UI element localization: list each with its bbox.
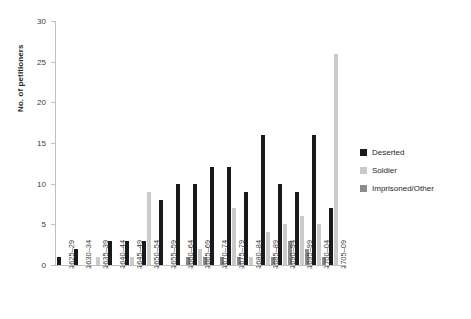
- x-tick-label: 1650–54: [152, 240, 161, 269]
- x-axis-line: [55, 265, 345, 266]
- bar-group: [174, 21, 191, 265]
- bar-group: [106, 21, 123, 265]
- legend-item[interactable]: Imprisoned/Other: [360, 184, 434, 193]
- x-tick-label: 1685–89: [271, 240, 280, 269]
- x-tick-label: 1655–59: [169, 240, 178, 269]
- bar-group: [293, 21, 310, 265]
- x-tick-label: 1635–39: [101, 240, 110, 269]
- bar-soldier: [283, 224, 287, 265]
- x-tick-label: 1625–29: [67, 240, 76, 269]
- bar-group: [276, 21, 293, 265]
- legend-swatch-icon: [360, 149, 367, 156]
- x-tick-label: 1660–64: [186, 240, 195, 269]
- bar-group: [225, 21, 242, 265]
- bar-soldier: [317, 224, 321, 265]
- x-tick-label: 1695–99: [305, 240, 314, 269]
- legend-swatch-icon: [360, 167, 367, 174]
- bar-group: [72, 21, 89, 265]
- bar-soldier: [147, 192, 151, 265]
- bar-group: [208, 21, 225, 265]
- x-tick-label: 1665–69: [203, 240, 212, 269]
- bar-soldier: [130, 257, 134, 265]
- bar-soldier: [334, 54, 338, 265]
- y-tick-label: 15: [0, 139, 46, 148]
- legend-swatch-icon: [360, 185, 367, 192]
- x-tick-label: 1670–74: [220, 240, 229, 269]
- x-tick-label: 1645–49: [135, 240, 144, 269]
- y-tick-label: 5: [0, 220, 46, 229]
- bar-group: [310, 21, 327, 265]
- bar-soldier: [266, 232, 270, 265]
- y-tick-label: 0: [0, 261, 46, 270]
- bar-group: [55, 21, 72, 265]
- bar-soldier: [232, 208, 236, 265]
- y-tick-label: 10: [0, 179, 46, 188]
- bar-group: [157, 21, 174, 265]
- bar-soldier: [249, 257, 253, 265]
- x-tick-label: 1630–34: [84, 240, 93, 269]
- x-tick-label: 1700–04: [322, 240, 331, 269]
- legend-label: Soldier: [372, 166, 397, 175]
- chart-legend: DesertedSoldierImprisoned/Other: [360, 148, 434, 202]
- bar-group: [259, 21, 276, 265]
- bar-group: [242, 21, 259, 265]
- x-tick-label: 1705–09: [339, 240, 348, 269]
- legend-label: Deserted: [372, 148, 404, 157]
- legend-item[interactable]: Soldier: [360, 166, 434, 175]
- bar-group: [191, 21, 208, 265]
- bar-soldier: [96, 257, 100, 265]
- x-tick-label: 1675–79: [237, 240, 246, 269]
- legend-item[interactable]: Deserted: [360, 148, 434, 157]
- bar-soldier: [300, 216, 304, 265]
- bar-group: [89, 21, 106, 265]
- bar-deserted: [57, 257, 61, 265]
- x-tick-label: 1640–44: [118, 240, 127, 269]
- y-tick-label: 25: [0, 57, 46, 66]
- plot-area: [55, 21, 344, 265]
- x-tick-label: 1680–84: [254, 240, 263, 269]
- chart-figure: No. of petitioners 051015202530 1625–291…: [0, 0, 471, 319]
- bar-group: [140, 21, 157, 265]
- legend-label: Imprisoned/Other: [372, 184, 434, 193]
- y-tick-label: 30: [0, 17, 46, 26]
- y-tick-label: 20: [0, 98, 46, 107]
- bar-group: [123, 21, 140, 265]
- bar-soldier: [198, 249, 202, 265]
- bar-group: [327, 21, 344, 265]
- x-tick-label: 1690–94: [288, 240, 297, 269]
